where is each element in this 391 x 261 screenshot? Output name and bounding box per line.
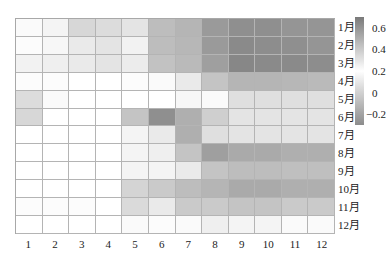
heatmap-cell	[122, 216, 149, 234]
heatmap-cell	[176, 216, 203, 234]
heatmap-cell	[96, 216, 123, 234]
heatmap-cell	[308, 216, 335, 234]
heatmap-cell	[282, 19, 309, 37]
heatmap-cell	[229, 109, 256, 127]
heatmap-cell	[282, 198, 309, 216]
heatmap-cell	[202, 55, 229, 73]
heatmap-cell	[16, 109, 43, 127]
heatmap-cell	[202, 144, 229, 162]
y-tick-label: 2月	[338, 36, 355, 54]
x-tick-label: 8	[202, 238, 228, 250]
heatmap-cell	[69, 216, 96, 234]
heatmap-cell	[149, 109, 176, 127]
heatmap-cell	[282, 91, 309, 109]
heatmap-cell	[176, 162, 203, 180]
heatmap-cell	[43, 37, 70, 55]
heatmap-cell	[16, 91, 43, 109]
heatmap-cell	[308, 37, 335, 55]
heatmap-cell	[255, 37, 282, 55]
y-tick-label: 4月	[338, 72, 355, 90]
heatmap-cell	[149, 198, 176, 216]
y-tick-label: 9月	[338, 162, 355, 180]
heatmap-cell	[149, 144, 176, 162]
heatmap-cell	[96, 91, 123, 109]
colorbar	[355, 17, 364, 125]
heatmap-cell	[255, 126, 282, 144]
heatmap-cell	[255, 162, 282, 180]
heatmap-cell	[16, 19, 43, 37]
heatmap-cell	[176, 180, 203, 198]
heatmap-cell	[43, 19, 70, 37]
heatmap-cell	[43, 73, 70, 91]
y-tick-label: 3月	[338, 54, 355, 72]
heatmap-cell	[176, 37, 203, 55]
y-tick-label: 12月	[338, 216, 360, 234]
heatmap-cell	[229, 126, 256, 144]
colorbar-tick-label: −0.2	[366, 108, 386, 120]
heatmap-cell	[96, 144, 123, 162]
heatmap-cell	[69, 55, 96, 73]
heatmap-cell	[43, 198, 70, 216]
x-tick-label: 2	[42, 238, 68, 250]
heatmap-cell	[308, 55, 335, 73]
heatmap-cell	[43, 162, 70, 180]
heatmap-cell	[176, 109, 203, 127]
heatmap-cell	[176, 73, 203, 91]
y-tick-label: 8月	[338, 144, 355, 162]
heatmap-cell	[96, 19, 123, 37]
heatmap-cell	[96, 162, 123, 180]
heatmap-cell	[176, 126, 203, 144]
heatmap-cell	[202, 37, 229, 55]
heatmap-cell	[149, 162, 176, 180]
heatmap-cell	[282, 73, 309, 91]
x-tick-label: 11	[282, 238, 308, 250]
y-tick-label: 11月	[338, 198, 360, 216]
heatmap-cell	[43, 180, 70, 198]
heatmap-cell	[229, 91, 256, 109]
heatmap-cell	[16, 126, 43, 144]
heatmap-cell	[16, 162, 43, 180]
heatmap-cell	[282, 109, 309, 127]
heatmap-cell	[149, 91, 176, 109]
heatmap-cell	[69, 162, 96, 180]
heatmap-cell	[229, 180, 256, 198]
heatmap-cell	[122, 162, 149, 180]
heatmap-cell	[255, 180, 282, 198]
heatmap-cell	[308, 19, 335, 37]
heatmap-cell	[16, 216, 43, 234]
y-tick-label: 6月	[338, 108, 355, 126]
heatmap-cell	[229, 55, 256, 73]
heatmap-cell	[255, 55, 282, 73]
heatmap-cell	[122, 109, 149, 127]
heatmap-cell	[122, 19, 149, 37]
heatmap-cell	[282, 180, 309, 198]
heatmap-cell	[43, 144, 70, 162]
heatmap-cell	[43, 109, 70, 127]
heatmap-cell	[202, 180, 229, 198]
heatmap-cell	[308, 198, 335, 216]
heatmap-cell	[69, 37, 96, 55]
heatmap-cell	[176, 144, 203, 162]
heatmap-cell	[202, 198, 229, 216]
y-tick-label: 1月	[338, 18, 355, 36]
heatmap-cell	[255, 198, 282, 216]
heatmap-cell	[308, 73, 335, 91]
heatmap-cell	[149, 55, 176, 73]
heatmap-cell	[229, 144, 256, 162]
heatmap-cell	[282, 162, 309, 180]
heatmap-cell	[229, 37, 256, 55]
heatmap-cell	[16, 198, 43, 216]
colorbar-tick-label: 0.6	[372, 22, 386, 34]
heatmap-cell	[282, 55, 309, 73]
x-tick-label: 7	[175, 238, 201, 250]
heatmap-cell	[202, 162, 229, 180]
heatmap-cell	[96, 180, 123, 198]
heatmap-cell	[202, 19, 229, 37]
x-tick-label: 3	[69, 238, 95, 250]
heatmap-cell	[255, 91, 282, 109]
heatmap-cell	[229, 73, 256, 91]
heatmap-cell	[308, 126, 335, 144]
heatmap-cell	[282, 37, 309, 55]
heatmap-cell	[122, 198, 149, 216]
heatmap-cell	[255, 144, 282, 162]
